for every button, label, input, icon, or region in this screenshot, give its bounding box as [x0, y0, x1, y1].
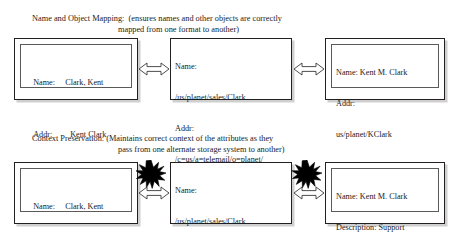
- ctx-connector-right: [293, 184, 325, 202]
- double-headed-arrow-icon: [293, 184, 325, 202]
- box-line: Addr:: [336, 99, 407, 109]
- box-line: Name: Kent M. Clark: [336, 68, 407, 78]
- box-line: Name:: [175, 62, 263, 72]
- field-value: Clark, Kent: [65, 202, 103, 211]
- box-line: Name:Clark, Kent: [25, 68, 112, 99]
- box-line: Description: Support: [336, 223, 407, 233]
- box-ctx-middle-text: Name: /us/planet/sales/Clark Date of Bir…: [175, 165, 246, 238]
- section-heading-label: Context Preservation:: [32, 134, 104, 145]
- section-heading-note-line1: (ensures names and other objects are cor…: [129, 14, 282, 23]
- double-headed-arrow-icon: [138, 60, 170, 78]
- field-label: Name:: [33, 78, 65, 88]
- box-line: /us/planet/sales/Clark: [175, 217, 246, 227]
- double-headed-arrow-icon: [293, 60, 325, 78]
- section-heading-context-preservation: Context Preservation: (Maintains correct…: [32, 134, 285, 155]
- nom-connector-left: [138, 60, 170, 78]
- box-line: Name:Clark, Kent: [25, 192, 115, 223]
- nom-connector-right: [293, 60, 325, 78]
- box-line: Name:: [175, 186, 246, 196]
- box-ctx-left-text: Name:Clark, Kent Title:Sales Support: [25, 171, 115, 238]
- ctx-connector-left: [138, 184, 170, 202]
- box-line: /us/planet/sales/Clark: [175, 93, 263, 103]
- box-line: us/planet/KClark: [336, 130, 407, 140]
- section-heading-note-line2: mapped from one format to another): [32, 25, 282, 36]
- section-heading-name-object-mapping: Name and Object Mapping: (ensures names …: [32, 14, 282, 35]
- box-nom-right-text: Name: Kent M. Clark Addr: us/planet/KCla…: [336, 47, 407, 151]
- field-label: Name:: [33, 202, 65, 212]
- section-heading-label: Name and Object Mapping:: [32, 14, 124, 25]
- section-heading-note-line1: (Maintains correct context of the attrib…: [106, 134, 273, 143]
- field-value: Clark, Kent: [65, 78, 103, 87]
- box-ctx-right-text: Name: Kent M. Clark Description: Support: [336, 171, 407, 238]
- section-heading-note-line2: pass from one alternate storage system t…: [32, 145, 285, 156]
- box-line: Name: Kent M. Clark: [336, 192, 407, 202]
- double-headed-arrow-icon: [138, 184, 170, 202]
